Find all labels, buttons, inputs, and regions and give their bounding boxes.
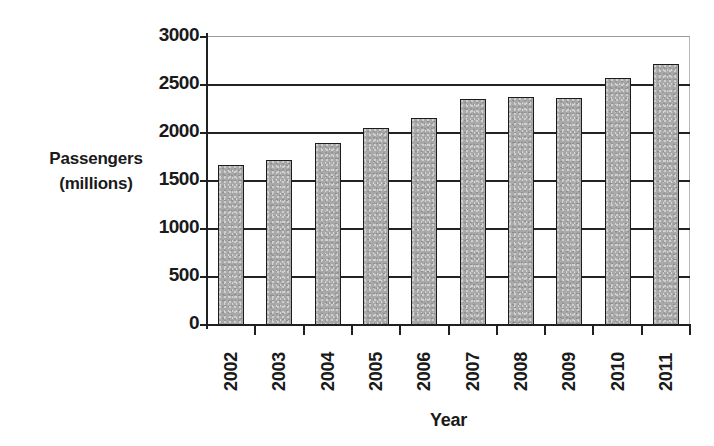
bar — [363, 128, 389, 325]
x-axis-label: 2008 — [510, 341, 532, 403]
bar — [315, 143, 341, 325]
bar — [605, 78, 631, 325]
x-axis-tick — [448, 326, 450, 335]
x-axis-tick — [303, 326, 305, 335]
y-axis-line — [206, 33, 208, 329]
bar — [653, 64, 679, 325]
bar — [218, 165, 244, 325]
y-axis-label: 3000 — [119, 24, 199, 46]
x-axis-label: 2005 — [365, 341, 387, 403]
bar — [508, 97, 534, 325]
x-axis-label: 2004 — [317, 341, 339, 403]
x-axis-label: 2003 — [268, 341, 290, 403]
x-axis-tick — [351, 326, 353, 335]
plot-area — [207, 37, 690, 325]
x-axis-tick — [641, 326, 643, 335]
x-axis-label: 2002 — [220, 341, 242, 403]
y-axis-label: 500 — [119, 264, 199, 286]
x-axis-label: 2009 — [558, 341, 580, 403]
bar — [266, 160, 292, 325]
x-axis-tick — [399, 326, 401, 335]
y-axis-label: 1500 — [119, 168, 199, 190]
x-axis-tick — [496, 326, 498, 335]
bar — [411, 118, 437, 325]
y-axis-label: 2000 — [119, 120, 199, 142]
x-axis-label: 2010 — [607, 341, 629, 403]
bar — [460, 99, 486, 325]
x-axis-label: 2007 — [462, 341, 484, 403]
y-axis-label: 2500 — [119, 72, 199, 94]
x-axis-title: Year — [207, 410, 690, 431]
bar-chart: Passengers (millions) 050010001500200025… — [0, 0, 714, 446]
x-axis-tick — [689, 326, 691, 335]
x-axis-tick — [544, 326, 546, 335]
gridline — [207, 36, 690, 37]
bar — [556, 98, 582, 325]
x-axis-tick — [592, 326, 594, 335]
x-axis-label: 2011 — [655, 341, 677, 403]
y-axis-label: 1000 — [119, 216, 199, 238]
y-axis-label: 0 — [119, 312, 199, 334]
x-axis-tick — [254, 326, 256, 335]
x-axis-label: 2006 — [413, 341, 435, 403]
